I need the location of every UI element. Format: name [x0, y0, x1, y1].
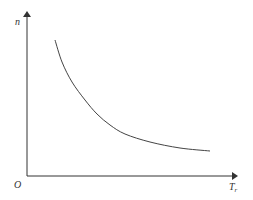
y-axis-label: n: [15, 16, 20, 27]
origin-label: O: [14, 179, 21, 190]
chart: n O Tr: [0, 0, 253, 200]
x-axis-label: Tr: [229, 181, 238, 194]
data-curve: [55, 40, 210, 151]
